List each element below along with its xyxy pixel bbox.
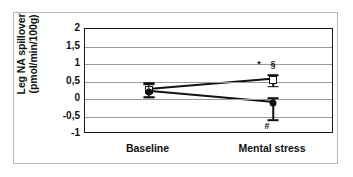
asterisk-annotation: * xyxy=(257,60,261,69)
series-line xyxy=(148,79,272,89)
plot-area: *§# xyxy=(84,28,333,133)
error-bar-cap xyxy=(268,86,279,88)
gridline xyxy=(85,47,332,48)
y-axis-tick-label: 0,5 xyxy=(50,76,80,86)
gridline xyxy=(85,64,332,65)
y-axis-tick-label: 1 xyxy=(50,58,80,68)
y-axis-tick-label: -1 xyxy=(50,128,80,138)
data-point-open-square xyxy=(269,76,277,84)
y-axis-tick-label: 2 xyxy=(50,23,80,33)
data-point-filled-circle xyxy=(270,100,277,107)
y-axis-tick-label: 1,5 xyxy=(50,41,80,51)
gridline xyxy=(85,117,332,118)
x-axis-tick-label: Baseline xyxy=(126,142,169,155)
y-axis-title: Leg NA spillover (pmol/min/100g) xyxy=(10,0,44,114)
y-axis-tick-label: 0 xyxy=(50,93,80,103)
x-axis-tick-labels: BaselineMental stress xyxy=(84,142,333,158)
section-annotation: § xyxy=(270,60,275,69)
y-axis-tick-labels: 21,510,50-0,5-1 xyxy=(48,0,80,177)
error-bar-cap xyxy=(143,84,154,86)
y-axis-title-line-1: Leg NA spillover xyxy=(15,14,27,95)
chart-figure: Leg NA spillover (pmol/min/100g) 21,510,… xyxy=(0,0,353,177)
y-axis-tick-label: -0,5 xyxy=(50,111,80,121)
y-axis-title-line-2: (pmol/min/100g) xyxy=(27,15,39,94)
gridline xyxy=(85,99,332,100)
series-line xyxy=(148,91,272,102)
gridline xyxy=(85,82,332,83)
data-point-filled-circle xyxy=(145,89,152,96)
hash-annotation: # xyxy=(264,122,269,131)
error-bar-cap xyxy=(143,97,154,99)
x-axis-tick-label: Mental stress xyxy=(238,142,305,155)
